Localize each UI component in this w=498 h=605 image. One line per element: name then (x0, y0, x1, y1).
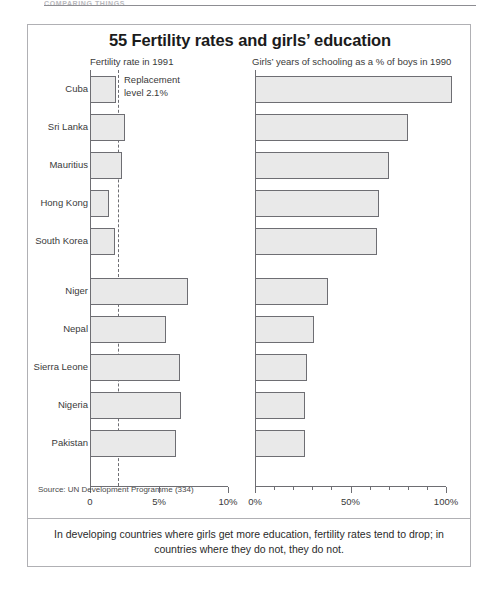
fertility-rate-plot: Replacement level 2.1% CubaSri LankaMaur… (28, 70, 238, 510)
left-axis-tick-label: 10% (218, 496, 237, 507)
table-row: Cuba (28, 70, 238, 108)
bar-schooling-mauritius (255, 152, 389, 179)
left-axis-tick-label: 5% (152, 496, 166, 507)
source-note: Source: UN Development Programme (334) (38, 485, 194, 494)
category-label: Sri Lanka (0, 108, 88, 146)
bar-schooling-nigeria (255, 392, 305, 419)
right-axis-tick (331, 487, 332, 490)
table-row (238, 424, 472, 462)
bar-fertility-sierra-leone (90, 354, 180, 381)
bar-fertility-nepal (90, 316, 166, 343)
bar-schooling-sierra-leone (255, 354, 307, 381)
right-axis-tick-label: 50% (341, 496, 360, 507)
figure-caption: In developing countries where girls get … (38, 527, 460, 557)
right-axis-tick (408, 487, 409, 490)
table-row (238, 272, 472, 310)
category-label: South Korea (0, 222, 88, 260)
caption-box: In developing countries where girls get … (27, 519, 471, 567)
category-label: Mauritius (0, 146, 88, 184)
category-label: Hong Kong (0, 184, 88, 222)
table-row: Sri Lanka (28, 108, 238, 146)
category-label: Nepal (0, 310, 88, 348)
table-row: Hong Kong (28, 184, 238, 222)
table-row: South Korea (28, 222, 238, 260)
left-panel-heading: Fertility rate in 1991 (90, 56, 173, 67)
right-axis-tick (274, 487, 275, 490)
table-row (238, 146, 472, 184)
right-axis-tick (351, 487, 352, 493)
table-row (238, 386, 472, 424)
page-rule (44, 5, 476, 6)
right-axis-tick (427, 487, 428, 490)
table-row: Mauritius (28, 146, 238, 184)
table-row (238, 222, 472, 260)
bar-schooling-hong-kong (255, 190, 379, 217)
bar-fertility-south-korea (90, 228, 115, 255)
table-row: Sierra Leone (28, 348, 238, 386)
right-axis-tick (446, 487, 447, 493)
right-axis-tick (293, 487, 294, 490)
bar-fertility-hong-kong (90, 190, 109, 217)
bar-fertility-nigeria (90, 392, 181, 419)
table-row (238, 310, 472, 348)
right-axis-tick-label: 0% (248, 496, 262, 507)
bar-schooling-niger (255, 278, 328, 305)
figure-frame: 55 Fertility rates and girls’ education … (27, 24, 471, 519)
category-label: Cuba (0, 70, 88, 108)
bar-fertility-pakistan (90, 430, 176, 457)
category-label: Sierra Leone (0, 348, 88, 386)
table-row (238, 108, 472, 146)
left-axis-tick (228, 487, 229, 493)
table-row (238, 184, 472, 222)
right-axis-tick (370, 487, 371, 490)
right-axis-tick (255, 487, 256, 493)
category-label: Pakistan (0, 424, 88, 462)
bar-schooling-nepal (255, 316, 314, 343)
page-title: 55 Fertility rates and girls’ education (28, 31, 472, 50)
category-label: Nigeria (0, 386, 88, 424)
bar-fertility-sri-lanka (90, 114, 125, 141)
girls-schooling-plot: 0%50%100% (238, 70, 472, 510)
table-row: Pakistan (28, 424, 238, 462)
right-panel-heading: Girls’ years of schooling as a % of boys… (252, 56, 451, 67)
bar-fertility-cuba (90, 76, 116, 103)
bar-fertility-mauritius (90, 152, 122, 179)
table-row: Niger (28, 272, 238, 310)
left-axis-tick-label: 0 (87, 496, 92, 507)
bar-schooling-south-korea (255, 228, 377, 255)
right-axis-tick (312, 487, 313, 490)
bar-fertility-niger (90, 278, 188, 305)
bar-schooling-pakistan (255, 430, 305, 457)
right-axis-tick (389, 487, 390, 490)
table-row (238, 70, 472, 108)
bar-schooling-cuba (255, 76, 452, 103)
bar-schooling-sri-lanka (255, 114, 408, 141)
table-row: Nepal (28, 310, 238, 348)
table-row (238, 348, 472, 386)
right-axis-tick-label: 100% (434, 496, 458, 507)
table-row: Nigeria (28, 386, 238, 424)
category-label: Niger (0, 272, 88, 310)
